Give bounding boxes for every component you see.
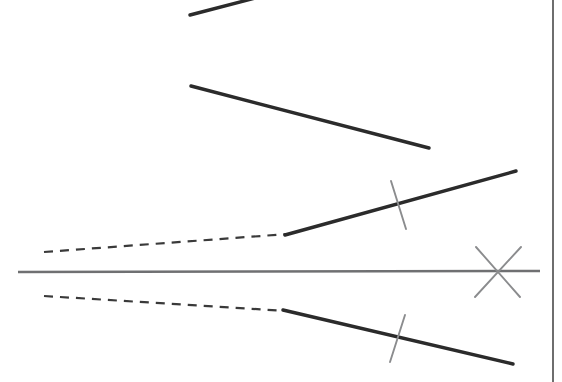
figure-container [0, 0, 562, 382]
canvas-background [0, 0, 562, 382]
horizontal-base-line [18, 271, 540, 272]
geometry-diagram-canvas [0, 0, 562, 382]
